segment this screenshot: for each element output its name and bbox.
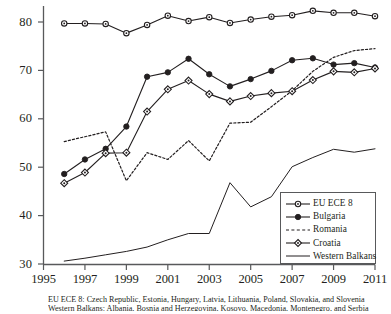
y-tick-label-80: 80 bbox=[6, 16, 32, 29]
y-tick-label-70: 70 bbox=[6, 64, 32, 77]
legend-swatch-line-open-diamond-icon bbox=[285, 237, 311, 249]
series-eu-ece-8 bbox=[62, 8, 378, 36]
legend-swatch-line-open-circle-icon bbox=[285, 198, 311, 210]
y-tick-marks bbox=[38, 22, 44, 264]
x-tick-label-1997: 1997 bbox=[65, 273, 105, 286]
legend-label: Western Balkans bbox=[311, 252, 376, 261]
footnote: EU ECE 8: Czech Republic, Estonia, Hunga… bbox=[48, 295, 380, 311]
x-tick-label-1999: 1999 bbox=[106, 273, 146, 286]
x-tick-label-2011: 2011 bbox=[355, 273, 391, 286]
x-tick-label-1995: 1995 bbox=[24, 273, 64, 286]
x-tick-marks bbox=[44, 265, 376, 271]
legend-item-western-balkans[interactable]: Western Balkans bbox=[285, 250, 372, 263]
legend-label: Bulgaria bbox=[311, 212, 345, 221]
legend-item-romania[interactable]: Romania bbox=[285, 223, 372, 236]
y-tick-label-30: 30 bbox=[6, 258, 32, 271]
series-romania bbox=[64, 49, 375, 181]
legend-label: Romania bbox=[311, 225, 347, 234]
x-tick-label-2001: 2001 bbox=[148, 273, 188, 286]
y-tick-label-60: 60 bbox=[6, 112, 32, 125]
legend-swatch-line-plain-icon bbox=[285, 250, 311, 262]
footnote-line-2: Western Balkans: Albania, Bosnia and Her… bbox=[48, 304, 380, 311]
legend-box: EU ECE 8BulgariaRomaniaCroatiaWestern Ba… bbox=[280, 192, 376, 264]
x-tick-label-2005: 2005 bbox=[231, 273, 271, 286]
series-croatia bbox=[61, 65, 379, 187]
footnote-line-1: EU ECE 8: Czech Republic, Estonia, Hunga… bbox=[48, 295, 380, 304]
x-tick-label-2007: 2007 bbox=[272, 273, 312, 286]
series-bulgaria bbox=[62, 56, 378, 177]
y-tick-label-50: 50 bbox=[6, 161, 32, 174]
legend-swatch-line-filled-circle-icon bbox=[285, 211, 311, 223]
y-tick-label-40: 40 bbox=[6, 209, 32, 222]
legend-swatch-line-dashed-icon bbox=[285, 224, 311, 236]
legend-item-eu-ece-8[interactable]: EU ECE 8 bbox=[285, 197, 372, 210]
x-tick-label-2009: 2009 bbox=[314, 273, 354, 286]
legend-label: Croatia bbox=[311, 239, 341, 248]
legend-label: EU ECE 8 bbox=[311, 199, 353, 208]
legend-item-bulgaria[interactable]: Bulgaria bbox=[285, 210, 372, 223]
x-tick-label-2003: 2003 bbox=[189, 273, 229, 286]
legend-item-croatia[interactable]: Croatia bbox=[285, 237, 372, 250]
